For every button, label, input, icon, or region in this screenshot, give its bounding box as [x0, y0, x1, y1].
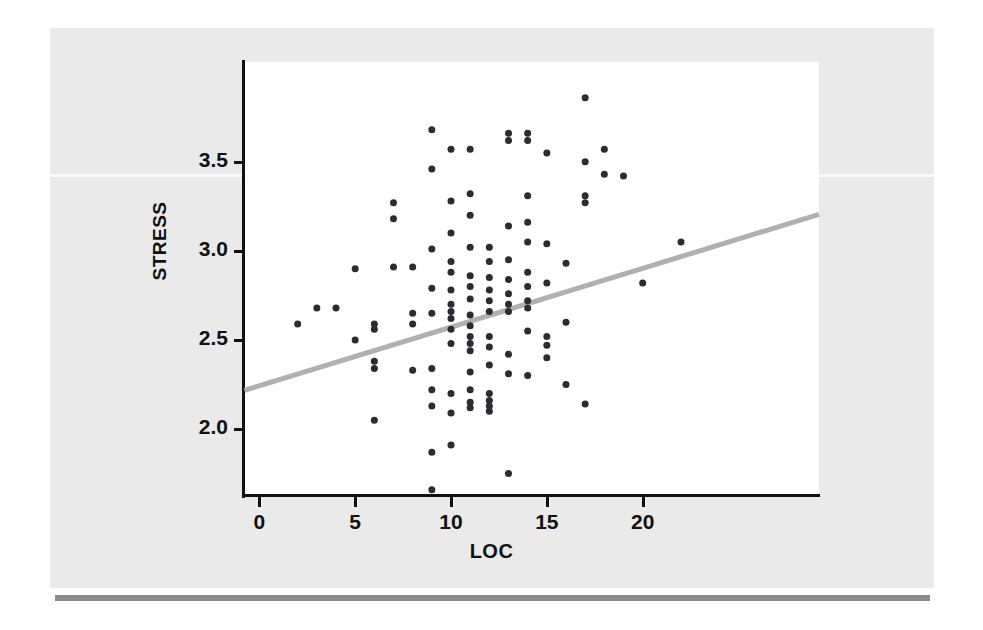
scatter-point	[486, 344, 493, 351]
scatter-point	[543, 333, 550, 340]
scatter-point	[467, 333, 474, 340]
scatter-point	[428, 246, 435, 253]
scatter-point	[467, 386, 474, 393]
scatter-point	[505, 308, 512, 315]
scatter-point	[582, 401, 589, 408]
scatter-point	[543, 240, 550, 247]
scatter-point	[582, 158, 589, 165]
scatter-point	[486, 297, 493, 304]
scatter-point	[467, 272, 474, 279]
scatter-point	[448, 269, 455, 276]
scatter-point	[601, 146, 608, 153]
scatter-point	[524, 219, 531, 226]
scatter-point	[352, 336, 359, 343]
scatter-point	[448, 146, 455, 153]
scatter-point	[371, 365, 378, 372]
scatter-point	[543, 342, 550, 349]
scatter-point	[505, 130, 512, 137]
scatter-point	[428, 365, 435, 372]
scatter-point	[524, 238, 531, 245]
scatter-point	[467, 399, 474, 406]
scatter-point	[448, 340, 455, 347]
scatter-point	[467, 347, 474, 354]
scatter-point	[467, 212, 474, 219]
scatter-point	[505, 290, 512, 297]
scatter-point	[467, 340, 474, 347]
scatter-point	[486, 361, 493, 368]
scatter-point	[428, 165, 435, 172]
scatter-point	[352, 265, 359, 272]
scatter-point	[505, 470, 512, 477]
scatter-point	[390, 263, 397, 270]
scatter-point	[601, 171, 608, 178]
scatter-point	[448, 410, 455, 417]
scatter-point	[582, 199, 589, 206]
scatter-point	[313, 304, 320, 311]
scatter-point	[428, 486, 435, 493]
scatter-point	[448, 230, 455, 237]
scatter-point	[486, 390, 493, 397]
scatter-point	[409, 367, 416, 374]
scatter-point	[639, 279, 646, 286]
figure-page: 2.02.53.03.5 05101520 STRESS LOC	[0, 0, 983, 630]
scatter-point	[448, 301, 455, 308]
scatter-point	[486, 258, 493, 265]
x-axis-label: LOC	[0, 540, 983, 563]
scatter-point	[371, 358, 378, 365]
scatter-point	[409, 320, 416, 327]
scatter-point	[486, 244, 493, 251]
page-bottom-rule	[55, 595, 930, 601]
scatter-point	[294, 320, 301, 327]
scatter-point	[582, 94, 589, 101]
scatter-point	[467, 283, 474, 290]
scatter-point	[448, 390, 455, 397]
scatter-point	[505, 222, 512, 229]
scatter-point	[505, 256, 512, 263]
scatter-point	[524, 192, 531, 199]
scatter-point	[390, 199, 397, 206]
scatter-point	[505, 370, 512, 377]
scatter-point	[563, 260, 570, 267]
scatter-point	[390, 215, 397, 222]
scatter-point	[428, 449, 435, 456]
scatter-point	[486, 397, 493, 404]
scatter-point	[467, 295, 474, 302]
scatter-point	[371, 320, 378, 327]
scatter-point	[505, 137, 512, 144]
scatter-point	[448, 258, 455, 265]
scatter-point	[486, 333, 493, 340]
scatter-point	[505, 301, 512, 308]
scatter-point	[505, 276, 512, 283]
scatter-point	[524, 269, 531, 276]
scatter-point	[428, 402, 435, 409]
scatter-point	[448, 287, 455, 294]
scatter-point	[543, 149, 550, 156]
scatter-point	[486, 287, 493, 294]
scatter-point	[582, 192, 589, 199]
y-axis-label: STRESS	[149, 201, 171, 280]
scatter-point	[448, 308, 455, 315]
scatter-point	[524, 283, 531, 290]
scatter-point	[524, 130, 531, 137]
scatter-point	[467, 322, 474, 329]
scatter-point	[486, 308, 493, 315]
scatter-point	[428, 310, 435, 317]
scatter-point	[428, 386, 435, 393]
scatter-point	[524, 304, 531, 311]
regression-trendline	[244, 214, 819, 390]
scatter-point	[563, 319, 570, 326]
scatter-point	[505, 351, 512, 358]
scatter-point	[409, 263, 416, 270]
scatter-point	[467, 312, 474, 319]
scatter-point	[448, 326, 455, 333]
scatter-point	[467, 146, 474, 153]
scatter-point	[371, 417, 378, 424]
scatter-point	[448, 442, 455, 449]
scatter-point	[428, 285, 435, 292]
scatter-point	[428, 126, 435, 133]
scatter-point	[524, 137, 531, 144]
scatter-point	[486, 274, 493, 281]
scatter-point	[524, 372, 531, 379]
scatter-point	[409, 310, 416, 317]
scatter-point	[448, 315, 455, 322]
